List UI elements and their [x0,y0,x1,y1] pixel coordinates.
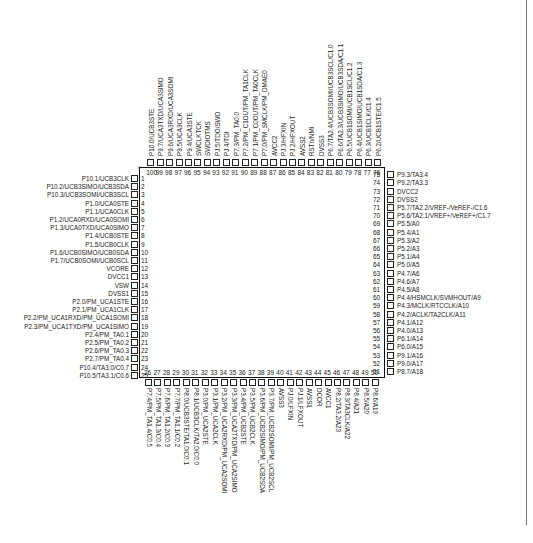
pin-pad [157,159,164,166]
pin-label: PJ.1/LFXOUT [297,388,304,427]
pin-pad [230,379,237,386]
pin-number: 46 [333,369,340,376]
pin-pad [280,159,287,166]
pin-pad [192,379,199,386]
pin-label: AVCC2 [271,135,278,156]
pin-pad [221,379,228,386]
pin-pad [154,379,161,386]
pin-pad [343,379,350,386]
pin-number: 78 [354,169,361,176]
pin-label: P9.2/TA3.3 [397,179,428,186]
pin-pad [131,200,138,207]
pin-label: P10.5/TA3.1/C0.6 [79,372,129,379]
pin-number: 4 [141,200,145,207]
pin-number: 7 [141,224,145,231]
pin-label: P2.1/PM_UCA1CLK [72,306,129,313]
pin-number: 77 [364,169,371,176]
pin-pad [166,159,173,166]
pin-pad [131,306,138,313]
pin-pad [387,212,394,219]
pin-number: 100 [146,169,157,176]
pin-number: 84 [297,169,304,176]
pin-pad [387,220,394,227]
pin-label: DVCC2 [397,188,418,195]
pin-pad [327,159,334,166]
pin-pad [387,253,394,260]
pin-label: P6.3/UCB1CLK/C1.4 [365,97,372,156]
pin-pad [387,204,394,211]
pin-label: P8.0/UCB3STE/TA1.0/C0.1 [183,388,190,465]
pin-pad [387,319,394,326]
pin-pad [296,379,303,386]
pin-number: 47 [342,369,349,376]
pin-label: P6.6/TA2.3/UCB3SIMO/UCB3SDA/C1.1 [337,44,344,156]
pin-label: PJ.2/HFXOUT [289,116,296,156]
page-margin-rule [526,0,527,525]
pin-pad [213,159,220,166]
pin-number: 83 [307,169,314,176]
pin-pad [315,379,322,386]
pin-label: P1.0/UCA0STE [85,200,129,207]
pin-pad [387,245,394,252]
pin-label: AVSS2 [299,136,306,156]
pin-label: P4.5/A8 [397,286,419,293]
pin-number: 82 [316,169,323,176]
pin-number: 53 [373,352,380,359]
pin-number: 14 [141,282,148,289]
pin-pad [202,379,209,386]
pin-number: 98 [165,169,172,176]
pin-number: 31 [191,369,198,376]
pin-pad [387,179,394,186]
pin-number: 48 [352,369,359,376]
pin-label: P4.6/A7 [397,278,419,285]
pin-pad [268,379,275,386]
pin-label: P7.4/PM_TA1.4/C0.5 [146,388,153,447]
pin-number: 22 [141,347,148,354]
pin-pad [336,159,343,166]
pin-number: 35 [229,369,236,376]
pin-label: P6.1/A14 [397,335,423,342]
pin-label: P2.3/PM_UCA1TXD/PM_UCA1SIMO [24,323,129,330]
pin-label: P1.1/UCA0CLK [85,208,129,215]
pin-label: DVSS1 [108,290,129,297]
pin-label: P3.4/PM_UCB2STE [240,388,247,445]
pin-number: 71 [373,204,380,211]
pin-label: P10.0/UCB3STE [148,109,155,156]
pin-number: 23 [141,355,148,362]
pin-pad [365,159,372,166]
pin-pad [325,379,332,386]
pin-pad [131,208,138,215]
pin-number: 66 [373,245,380,252]
pin-number: 52 [373,360,380,367]
pin-number: 76 [373,169,380,176]
pin-pad [131,290,138,297]
pin-label: PJ.5/TDO/SWO [214,112,221,156]
pin-label: RSTn/NMI [308,127,315,156]
pin-pad [270,159,277,166]
pin-pad [131,249,138,256]
pin-label: P3.7/PM_UCB2SOMI/PM_UCB2SCL [268,388,275,492]
pin-pad [387,229,394,236]
pin-pad [131,331,138,338]
pin-label: P2.6/PM_TA0.3 [85,347,129,354]
pin-pad [387,171,394,178]
pin-label: P3.1/PM_UCA2CLK [212,388,219,445]
pin-label: P8.6/A19 [372,388,379,414]
pin-number: 19 [141,323,148,330]
pin1-marker-icon: ○ [137,164,141,171]
pin-label: P2.7/PM_TA0.4 [85,355,129,362]
pin-pad [387,311,394,318]
pin-pad [317,159,324,166]
pin-label: P10.2/UCB3SIMO/UCB3SDA [46,183,129,190]
pin-label: AVSS3 [278,388,285,408]
pin-number: 34 [220,369,227,376]
pin-pad [387,327,394,334]
pin-label: P10.4/TA3.0/C0.7 [79,364,129,371]
pin-label: DVSS2 [397,196,418,203]
pin-number: 90 [241,169,248,176]
pin-label: P1.3/UCA0TXD/UCA0SIMO [50,224,129,231]
pin-label: P4.0/A13 [397,327,423,334]
pin-label: P9.6/UCA3RXD/UCA3SOMI [167,77,174,156]
pin-pad [131,372,138,379]
pin-pad [298,159,305,166]
